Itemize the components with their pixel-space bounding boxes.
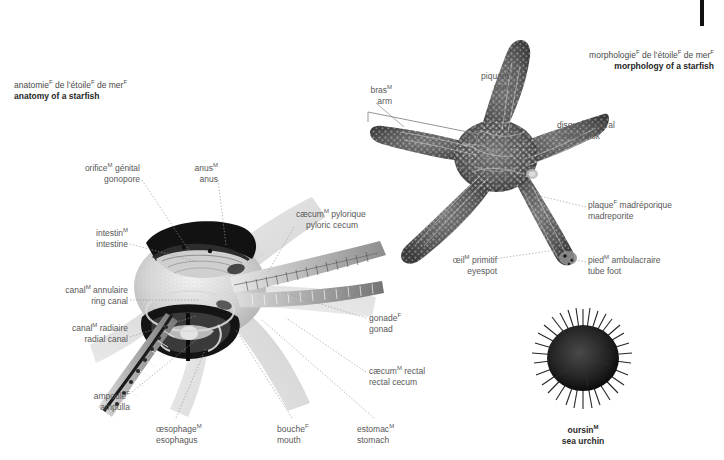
label-ampulla-en: ampulla [50, 402, 130, 413]
label-ring-canal: canalM annulaire ring canal [28, 285, 128, 306]
label-gonopore-en: gonopore [40, 174, 140, 185]
label-ring-canal-fr: canalM annulaire [28, 285, 128, 296]
label-central-disk-en: central disk [557, 131, 615, 142]
label-intestine-fr: intestinM [48, 228, 128, 239]
label-gonopore: orificeM génital gonopore [40, 163, 140, 184]
label-eyespot-fr: œilM primitif [437, 255, 497, 266]
anatomy-title-en: anatomy of a starfish [14, 91, 127, 102]
sea-urchin-illustration [528, 305, 638, 413]
label-mouth: boucheF mouth [277, 424, 309, 445]
morphology-title-en: morphology of a starfish [524, 61, 714, 72]
label-stomach: estomacM stomach [357, 424, 394, 445]
label-stomach-fr: estomacM [357, 424, 394, 435]
label-tube-foot: piedM ambulacraire tube foot [588, 255, 661, 276]
label-ampulla: ampouleF ampulla [50, 391, 130, 412]
label-esophagus-en: esophagus [156, 435, 202, 446]
label-rectal-cecum-en: rectal cecum [369, 377, 425, 388]
label-radial-canal: canalM radiaire radial canal [28, 323, 128, 344]
label-radial-canal-en: radial canal [28, 334, 128, 345]
label-tube-foot-en: tube foot [588, 266, 661, 277]
label-anus: anusM anus [156, 163, 218, 184]
label-arm-fr: brasM [330, 85, 392, 96]
morphology-title: morphologieF de l’étoileF de merF morpho… [524, 50, 714, 71]
label-arm-en: arm [330, 96, 392, 107]
label-madreporite: plaqueF madréporique madreporite [588, 200, 672, 221]
label-pyloric-cecum-en: pyloric cecum [296, 220, 366, 231]
label-spine-fr: piquantM [440, 71, 514, 82]
page-edge-mark-icon [700, 0, 704, 26]
label-madreporite-fr: plaqueF madréporique [588, 200, 672, 211]
morphology-title-fr: morphologieF de l’étoileF de merF [524, 50, 714, 61]
plate-page: anatomieF de l’étoileF de merF anatomy o… [0, 0, 724, 460]
label-mouth-en: mouth [277, 435, 309, 446]
anatomy-title: anatomieF de l’étoileF de merF anatomy o… [14, 80, 127, 101]
label-anus-fr: anusM [156, 163, 218, 174]
label-arm: brasM arm [330, 85, 392, 106]
label-gonad: gonadeF gonad [369, 313, 401, 334]
label-gonopore-fr: orificeM génital [40, 163, 140, 174]
label-esophagus: œsophageM esophagus [156, 424, 202, 445]
label-central-disk-fr: disqueM central [557, 120, 615, 131]
label-pyloric-cecum: cæcumM pylorique pyloric cecum [296, 209, 366, 230]
caption-sea-urchin: oursinM sea urchin [535, 425, 631, 446]
caption-sea-urchin-fr: oursinM [535, 425, 631, 436]
label-ampulla-fr: ampouleF [50, 391, 130, 402]
label-spine: piquantM spine [440, 71, 514, 92]
label-ring-canal-en: ring canal [28, 296, 128, 307]
label-eyespot: œilM primitif eyespot [437, 255, 497, 276]
label-gonad-fr: gonadeF [369, 313, 401, 324]
label-stomach-en: stomach [357, 435, 394, 446]
label-gonad-en: gonad [369, 324, 401, 335]
label-anus-en: anus [156, 174, 218, 185]
label-rectal-cecum-fr: cæcumM rectal [369, 366, 425, 377]
label-spine-en: spine [440, 82, 514, 93]
label-mouth-fr: boucheF [277, 424, 309, 435]
label-intestine-en: intestine [48, 239, 128, 250]
anatomy-title-fr: anatomieF de l’étoileF de merF [14, 80, 127, 91]
label-tube-foot-fr: piedM ambulacraire [588, 255, 661, 266]
label-radial-canal-fr: canalM radiaire [28, 323, 128, 334]
label-intestine: intestinM intestine [48, 228, 128, 249]
label-esophagus-fr: œsophageM [156, 424, 202, 435]
label-eyespot-en: eyespot [437, 266, 497, 277]
label-rectal-cecum: cæcumM rectal rectal cecum [369, 366, 425, 387]
label-pyloric-cecum-fr: cæcumM pylorique [296, 209, 366, 220]
label-central-disk: disqueM central central disk [557, 120, 615, 141]
label-madreporite-en: madreporite [588, 211, 672, 222]
caption-sea-urchin-en: sea urchin [535, 436, 631, 447]
